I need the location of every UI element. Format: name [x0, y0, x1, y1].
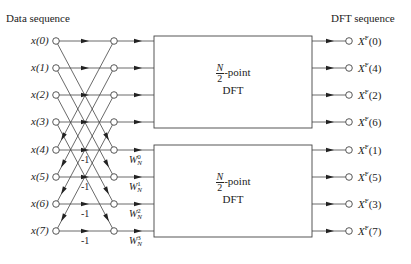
twiddle-factor-label: W3N	[129, 235, 142, 248]
input-label: x(6)	[31, 198, 49, 209]
node	[111, 119, 118, 126]
node	[111, 228, 118, 235]
output-label: XF(4)	[358, 62, 381, 74]
input-label: x(0)	[31, 35, 49, 46]
node	[111, 147, 118, 154]
input-label: x(2)	[31, 89, 49, 100]
output-label: XF(1)	[358, 144, 381, 156]
fft-butterfly-diagram: { "headers": { "left": "Data sequence", …	[0, 0, 411, 264]
node	[111, 38, 118, 45]
node	[53, 65, 60, 72]
minus-one-label: -1	[81, 209, 89, 219]
node	[111, 201, 118, 208]
node	[111, 92, 118, 99]
minus-one-label: -1	[81, 155, 89, 165]
input-label: x(3)	[31, 116, 49, 127]
dft-box-bottom-label: N2-point DFT	[154, 172, 312, 206]
twiddle-factor-label: W2N	[129, 208, 142, 221]
input-label: x(7)	[31, 225, 49, 236]
input-label: x(4)	[31, 144, 49, 155]
node	[346, 201, 353, 208]
input-label: x(5)	[31, 171, 49, 182]
dft-box-top-label: N2-point DFT	[154, 63, 312, 97]
node	[346, 92, 353, 99]
node	[346, 174, 353, 181]
node	[53, 228, 60, 235]
node	[111, 174, 118, 181]
output-label: XF(6)	[358, 116, 381, 128]
node	[53, 147, 60, 154]
output-label: XF(3)	[358, 198, 381, 210]
node	[346, 147, 353, 154]
output-label: XF(7)	[358, 225, 381, 237]
flow-graph-lines	[0, 0, 411, 264]
minus-one-label: -1	[81, 182, 89, 192]
output-label: XF(2)	[358, 89, 381, 101]
node	[346, 65, 353, 72]
node	[53, 119, 60, 126]
node	[346, 119, 353, 126]
dft-sequence-header: DFT sequence	[331, 13, 395, 24]
fraction-n-over-2: N2	[216, 172, 225, 193]
node	[53, 38, 60, 45]
node	[346, 38, 353, 45]
node	[53, 174, 60, 181]
output-label: XF(0)	[358, 35, 381, 47]
data-sequence-header: Data sequence	[6, 13, 70, 24]
node	[111, 65, 118, 72]
input-label: x(1)	[31, 62, 49, 73]
node	[53, 92, 60, 99]
twiddle-factor-label: W0N	[129, 154, 142, 167]
twiddle-factor-label: W1N	[129, 181, 142, 194]
minus-one-label: -1	[81, 236, 89, 246]
fraction-n-over-2: N2	[216, 63, 225, 84]
output-label: XF(5)	[358, 171, 381, 183]
node	[346, 228, 353, 235]
node	[53, 201, 60, 208]
